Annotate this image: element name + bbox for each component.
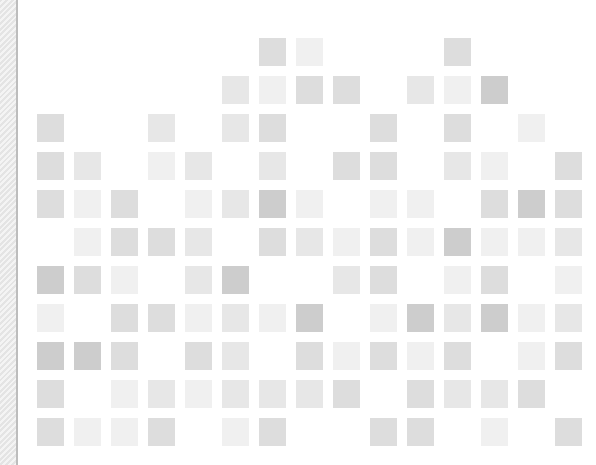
grid-tile — [333, 266, 360, 294]
grid-tile — [296, 380, 323, 408]
grid-tile — [296, 38, 323, 66]
grid-tile — [259, 418, 286, 446]
grid-tile — [407, 228, 434, 256]
grid-tile — [259, 228, 286, 256]
grid-tile — [37, 380, 64, 408]
grid-tile — [555, 228, 582, 256]
grid-tile — [37, 152, 64, 180]
grid-tile — [74, 152, 101, 180]
grid-tile — [74, 190, 101, 218]
grid-tile — [333, 228, 360, 256]
grid-tile — [555, 304, 582, 332]
grid-tile — [444, 342, 471, 370]
grid-tile — [296, 342, 323, 370]
grid-tile — [259, 380, 286, 408]
grid-tile — [481, 266, 508, 294]
grid-tile — [370, 190, 397, 218]
grid-tile — [111, 342, 138, 370]
grid-tile — [518, 114, 545, 142]
grid-tile — [37, 342, 64, 370]
grid-tile — [481, 304, 508, 332]
grid-tile — [222, 114, 249, 142]
grid-tile — [222, 190, 249, 218]
grid-tile — [555, 266, 582, 294]
grid-tile — [185, 190, 212, 218]
grid-tile — [222, 304, 249, 332]
grid-tile — [481, 152, 508, 180]
grid-tile — [407, 190, 434, 218]
grid-tile — [37, 114, 64, 142]
grid-tile — [370, 266, 397, 294]
grid-tile — [222, 266, 249, 294]
grid-tile — [74, 418, 101, 446]
grid-tile — [370, 152, 397, 180]
grid-tile — [444, 228, 471, 256]
grid-tile — [370, 342, 397, 370]
grid-tile — [148, 418, 175, 446]
grid-tile — [37, 266, 64, 294]
grid-tile — [259, 190, 286, 218]
grid-tile — [296, 304, 323, 332]
grid-tile — [444, 266, 471, 294]
grid-tile — [444, 380, 471, 408]
grid-tile — [185, 304, 212, 332]
grid-tile — [333, 342, 360, 370]
grid-tile — [444, 38, 471, 66]
grid-tile — [444, 114, 471, 142]
grid-tile — [296, 190, 323, 218]
grid-tile — [518, 380, 545, 408]
grid-tile — [407, 76, 434, 104]
grid-tile — [185, 342, 212, 370]
grid-tile — [518, 190, 545, 218]
grid-tile — [111, 418, 138, 446]
grid-tile — [296, 76, 323, 104]
grid-tile — [481, 228, 508, 256]
grid-tile — [444, 304, 471, 332]
grid-tile — [444, 76, 471, 104]
grid-tile — [37, 304, 64, 332]
grid-tile — [555, 418, 582, 446]
grid-tile — [259, 76, 286, 104]
grid-tile — [407, 380, 434, 408]
grid-tile — [111, 304, 138, 332]
grid-tile — [481, 418, 508, 446]
grid-tile — [222, 418, 249, 446]
grid-tile — [185, 152, 212, 180]
grid-tile — [407, 304, 434, 332]
grid-tile — [148, 304, 175, 332]
grid-tile — [444, 152, 471, 180]
grid-tile — [74, 342, 101, 370]
grid-tile — [518, 304, 545, 332]
grid-tile — [481, 76, 508, 104]
grid-tile — [74, 228, 101, 256]
grid-tile — [555, 342, 582, 370]
grid-tile — [148, 380, 175, 408]
grid-tile — [555, 190, 582, 218]
grid-tile — [259, 152, 286, 180]
grid-tile — [259, 114, 286, 142]
grid-tile — [111, 380, 138, 408]
grid-tile — [111, 190, 138, 218]
grid-tile — [296, 228, 323, 256]
grid-tile — [222, 342, 249, 370]
grid-tile — [407, 418, 434, 446]
grid-tile — [111, 228, 138, 256]
grid-tile — [74, 266, 101, 294]
grid-tile — [259, 38, 286, 66]
grid-tile — [370, 228, 397, 256]
grid-tile — [370, 304, 397, 332]
grid-tile — [185, 380, 212, 408]
grid-tile — [555, 152, 582, 180]
grid-tile — [481, 380, 508, 408]
grid-tile — [259, 304, 286, 332]
grid-tile — [37, 418, 64, 446]
grid-tile — [222, 380, 249, 408]
grid-tile — [333, 152, 360, 180]
grid-tile — [148, 152, 175, 180]
grid-tile — [148, 228, 175, 256]
square-tile-grid — [0, 0, 596, 465]
grid-tile — [37, 190, 64, 218]
grid-tile — [111, 266, 138, 294]
grid-tile — [481, 190, 508, 218]
grid-tile — [407, 342, 434, 370]
